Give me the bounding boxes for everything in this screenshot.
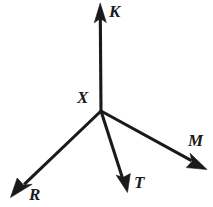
ray-label-m: M [188,132,203,149]
ray-label-t: T [134,174,144,191]
vertex-label-x: X [77,89,88,106]
ray-label-r: R [29,186,40,203]
ray-m-arrowhead [186,153,207,169]
ray-label-k: K [109,3,120,20]
ray-diagram-canvas [0,0,213,207]
ray-k-shaft [100,16,101,111]
ray-r-shaft [24,111,101,184]
ray-r [11,111,102,198]
ray-k [94,3,106,111]
ray-diagram-figure: K X M T R [0,0,213,207]
